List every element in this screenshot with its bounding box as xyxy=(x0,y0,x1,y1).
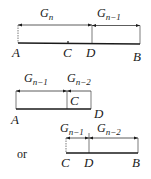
arrow-left-icon xyxy=(89,137,93,140)
label-gn-2: Gn−2 xyxy=(67,71,91,87)
point-b: B xyxy=(132,155,140,170)
point-a: A xyxy=(10,112,19,127)
arrow-right-icon xyxy=(85,137,89,140)
label-gn-1: Gn−1 xyxy=(24,71,48,87)
point-c: C xyxy=(70,93,79,108)
arrow-left-icon xyxy=(16,90,20,93)
arrow-left-icon xyxy=(92,24,96,27)
point-d: D xyxy=(85,45,96,60)
diagram-3: Gn−1 Gn−2 C D B xyxy=(60,121,140,170)
point-c: C xyxy=(63,45,72,60)
label-gn-2: Gn−2 xyxy=(97,121,121,137)
golden-section-diagram: Gn Gn−1 A C D B Gn−1 Gn−2 A C D or xyxy=(0,0,151,179)
arrow-right-icon xyxy=(88,24,92,27)
arrow-right-icon xyxy=(63,90,67,93)
point-d: D xyxy=(83,155,94,170)
label-gn-1: Gn−1 xyxy=(97,6,121,22)
connector-or: or xyxy=(17,147,27,161)
label-gn-1: Gn−1 xyxy=(60,121,84,137)
arrow-right-icon xyxy=(134,137,138,140)
segment-ab xyxy=(18,43,140,44)
point-d: D xyxy=(93,106,104,121)
point-c: C xyxy=(61,155,70,170)
point-a: A xyxy=(11,45,20,60)
point-b: B xyxy=(133,49,141,64)
arrow-left-icon xyxy=(18,24,22,27)
diagram-2: Gn−1 Gn−2 A C D xyxy=(10,71,104,127)
arrow-right-icon xyxy=(136,24,140,27)
label-gn: Gn xyxy=(40,6,54,22)
diagram-1: Gn Gn−1 A C D B xyxy=(11,6,141,64)
